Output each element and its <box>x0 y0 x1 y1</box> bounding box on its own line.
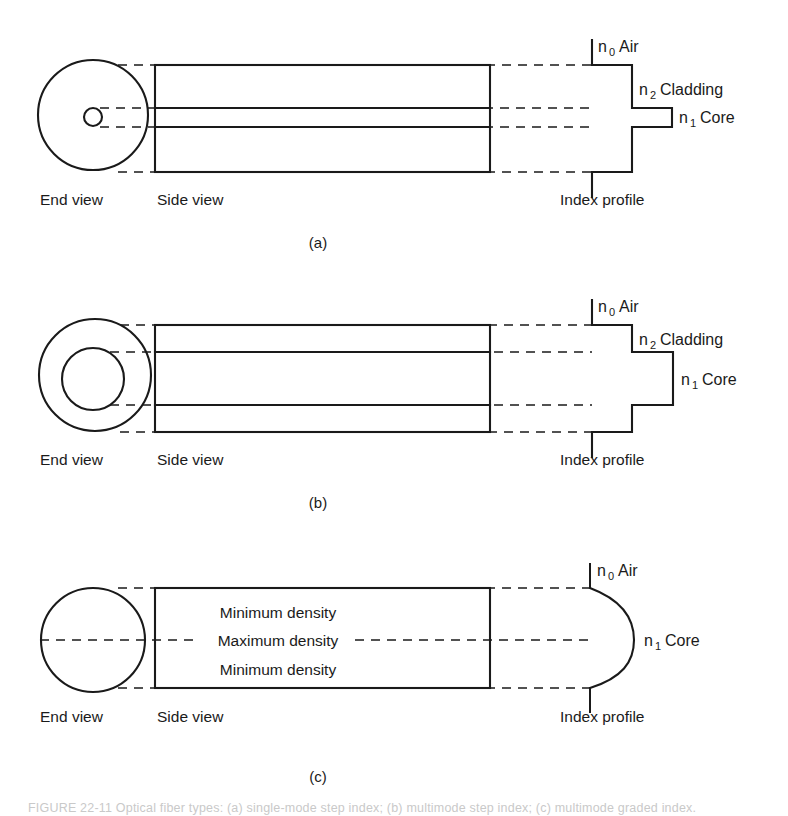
panel-c-label-n1-core: n 1 Core <box>644 632 700 652</box>
panel-a-n2-symbol: n <box>639 81 648 98</box>
panel-c-annotation-maximum-density: Maximum density <box>218 632 339 649</box>
panel-c-side-view-label: Side view <box>157 708 224 725</box>
panel-b-n2-subscript: 2 <box>650 339 656 351</box>
panel-c-end-view-label: End view <box>40 708 104 725</box>
panel-a-end-view-label: End view <box>40 191 104 208</box>
panel-c: Minimum density Maximum density Minimum … <box>40 562 700 785</box>
panel-a-end-view-cladding-circle <box>38 60 148 170</box>
panel-a-n0-subscript: 0 <box>609 46 615 58</box>
panel-b-end-view-label: End view <box>40 451 104 468</box>
panel-b: n 0 Air n 2 Cladding n 1 Core End view S… <box>39 298 737 511</box>
panel-a-air-text: Air <box>619 38 639 55</box>
panel-b-n1-symbol: n <box>681 371 690 388</box>
panel-b-label-n1-core: n 1 Core <box>681 371 737 391</box>
panel-a-cladding-text: Cladding <box>660 81 723 98</box>
panel-b-n1-subscript: 1 <box>692 379 698 391</box>
panel-b-cladding-text: Cladding <box>660 331 723 348</box>
panel-c-air-text: Air <box>618 562 638 579</box>
panel-b-core-text: Core <box>702 371 737 388</box>
panel-a-side-view-rect <box>155 65 490 172</box>
panel-a-core-text: Core <box>700 109 735 126</box>
panel-c-index-profile-label: Index profile <box>560 708 644 725</box>
panel-a: n 0 Air n 2 Cladding n 1 Core End view S… <box>38 38 735 251</box>
panel-a-end-view-core-circle <box>84 108 102 126</box>
figure-caption: FIGURE 22-11 Optical fiber types: (a) si… <box>28 801 768 816</box>
panel-a-label-n2-cladding: n 2 Cladding <box>639 81 723 101</box>
panel-c-annotation-minimum-density-top: Minimum density <box>220 604 337 621</box>
panel-c-core-text: Core <box>665 632 700 649</box>
panel-c-index-profile-curve <box>590 588 634 688</box>
panel-b-end-view-cladding-circle <box>39 319 151 431</box>
panel-c-label-n0-air: n 0 Air <box>597 562 638 582</box>
panel-a-side-view-label: Side view <box>157 191 224 208</box>
panel-b-n0-symbol: n <box>598 298 607 315</box>
panel-c-n1-subscript: 1 <box>655 640 661 652</box>
panel-c-n0-subscript: 0 <box>608 570 614 582</box>
panel-b-index-profile-label: Index profile <box>560 451 644 468</box>
panel-b-side-view-label: Side view <box>157 451 224 468</box>
panel-b-index-profile-curve <box>592 300 673 457</box>
panel-b-side-view-rect <box>155 325 490 432</box>
panel-a-index-profile-curve <box>592 40 672 197</box>
panel-b-letter-label: (b) <box>309 494 327 511</box>
panel-a-n1-symbol: n <box>679 109 688 126</box>
panel-c-n1-symbol: n <box>644 632 653 649</box>
panel-a-index-profile-label: Index profile <box>560 191 644 208</box>
panel-c-annotation-minimum-density-bottom: Minimum density <box>220 661 337 678</box>
panel-a-label-n0-air: n 0 Air <box>598 38 639 58</box>
panel-b-label-n2-cladding: n 2 Cladding <box>639 331 723 351</box>
panel-b-label-n0-air: n 0 Air <box>598 298 639 318</box>
panel-a-label-n1-core: n 1 Core <box>679 109 735 129</box>
panel-a-n2-subscript: 2 <box>650 89 656 101</box>
panel-b-n2-symbol: n <box>639 331 648 348</box>
panel-a-n0-symbol: n <box>598 38 607 55</box>
panel-b-n0-subscript: 0 <box>609 306 615 318</box>
panel-b-end-view-core-circle <box>62 348 124 410</box>
panel-c-letter-label: (c) <box>309 768 327 785</box>
panel-c-n0-symbol: n <box>597 562 606 579</box>
panel-b-air-text: Air <box>619 298 639 315</box>
panel-a-letter-label: (a) <box>309 234 327 251</box>
panel-a-n1-subscript: 1 <box>690 117 696 129</box>
